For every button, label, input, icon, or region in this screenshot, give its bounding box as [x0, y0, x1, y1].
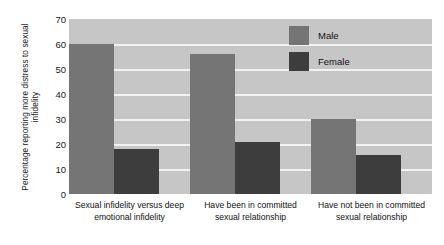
legend-item-female: Female [289, 52, 373, 71]
y-axis-tick-label: 60 [32, 39, 66, 50]
bar-male-group-1 [69, 44, 114, 194]
legend-label: Male [318, 30, 339, 41]
x-axis-category-label: Sexual infidelity versus deep emotional … [69, 200, 190, 242]
y-axis-tick-label: 40 [32, 89, 66, 100]
bar-female-group-2 [235, 142, 280, 195]
y-axis-tick-labels: 706050403020100 [32, 0, 66, 245]
y-axis-tick-label: 30 [32, 114, 66, 125]
bar-female-group-3 [356, 155, 401, 194]
bars-layer [69, 19, 432, 194]
bar-chart: Percentage reporting more distress to se… [0, 0, 444, 245]
plot-area [69, 19, 432, 194]
y-axis-tick-label: 10 [32, 164, 66, 175]
bar-male-group-3 [311, 119, 356, 194]
legend-swatch-female-icon [289, 52, 309, 71]
y-axis-tick-label: 0 [32, 189, 66, 200]
x-axis-category-labels: Sexual infidelity versus deep emotional … [69, 200, 432, 242]
bar-female-group-1 [114, 149, 159, 194]
x-axis-category-label: Have been in committed sexual relationsh… [190, 200, 311, 242]
y-axis-tick-label: 70 [32, 14, 66, 25]
legend-label: Female [318, 56, 350, 67]
legend: MaleFemale [289, 26, 373, 78]
y-axis-tick-label: 20 [32, 139, 66, 150]
y-axis-tick-label: 50 [32, 64, 66, 75]
legend-swatch-male-icon [289, 26, 309, 45]
legend-item-male: Male [289, 26, 373, 45]
x-axis-category-label: Have not been in committed sexual relati… [311, 200, 432, 242]
bar-male-group-2 [190, 54, 235, 194]
